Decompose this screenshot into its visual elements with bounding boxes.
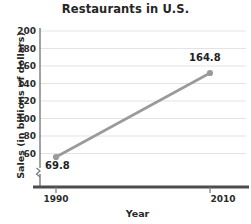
data-label-1990: 69.8 <box>45 160 70 171</box>
data-label-2010: 164.8 <box>189 52 221 63</box>
gridlines <box>40 31 246 154</box>
data-line-series-1 <box>56 73 210 157</box>
data-point-2010 <box>207 70 213 76</box>
x-axis-title: Year <box>30 208 245 219</box>
line-chart: Restaurants in U.S. Sales (in billions o… <box>0 0 251 224</box>
plot-area <box>0 0 251 224</box>
x-tick-label-1990: 1990 <box>36 194 76 204</box>
x-tick-label-2010: 2010 <box>203 194 243 204</box>
